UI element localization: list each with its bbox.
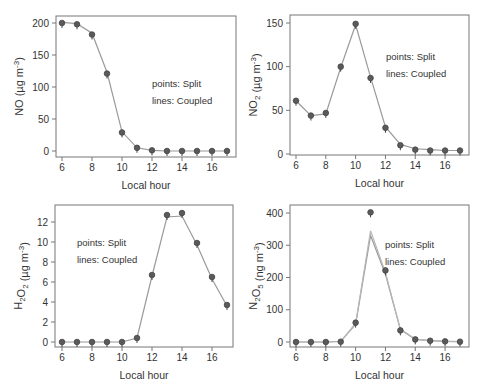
x-axis-label: Local hour bbox=[355, 369, 405, 381]
data-point bbox=[59, 20, 65, 26]
y-tick-label: 0 bbox=[42, 337, 48, 348]
data-point bbox=[179, 148, 185, 154]
legend-annotation: points: Splitlines: Coupled bbox=[385, 239, 445, 267]
data-point bbox=[308, 113, 314, 119]
y-tick-label: 8 bbox=[42, 257, 48, 268]
data-point bbox=[104, 71, 110, 77]
data-point bbox=[442, 339, 448, 345]
x-tick-label: 6 bbox=[293, 160, 299, 171]
y-tick-label: 100 bbox=[32, 82, 49, 93]
data-point bbox=[293, 339, 299, 345]
data-point bbox=[224, 302, 230, 308]
x-tick-label: 10 bbox=[116, 352, 128, 363]
data-point bbox=[134, 145, 140, 151]
panel-h2o2: 0246810126810121416Local hourH2O2 (µg m-… bbox=[12, 205, 233, 381]
x-tick-label: 6 bbox=[293, 352, 299, 363]
y-tick-label: 100 bbox=[266, 61, 283, 72]
data-point bbox=[383, 125, 389, 131]
series-line-coupled bbox=[62, 22, 227, 151]
y-tick-label: 0 bbox=[277, 149, 283, 160]
legend-annotation: points: Splitlines: Coupled bbox=[77, 237, 137, 265]
data-point bbox=[353, 21, 359, 27]
data-point bbox=[412, 147, 418, 153]
data-point bbox=[338, 339, 344, 345]
data-point bbox=[119, 130, 125, 136]
series-points-split bbox=[293, 21, 463, 155]
data-point bbox=[224, 148, 230, 154]
annotation-points-split: points: Split bbox=[385, 239, 434, 250]
x-axis-label: Local hour bbox=[121, 179, 171, 191]
x-tick-label: 6 bbox=[59, 352, 65, 363]
data-point bbox=[74, 21, 80, 27]
series-line-coupled bbox=[296, 231, 460, 342]
x-tick-label: 16 bbox=[440, 160, 452, 171]
data-point bbox=[74, 339, 80, 345]
data-point bbox=[368, 210, 374, 216]
data-point bbox=[119, 339, 125, 345]
y-tick-label: 200 bbox=[32, 18, 49, 29]
data-point bbox=[209, 148, 215, 154]
data-point bbox=[194, 240, 200, 246]
data-point bbox=[457, 339, 463, 345]
figure-canvas: 0501001502006810121416Local hourNO (µg m… bbox=[0, 0, 482, 391]
x-tick-label: 8 bbox=[323, 352, 329, 363]
data-point bbox=[338, 64, 344, 70]
y-axis: 050100150 bbox=[266, 18, 290, 160]
series-points-split bbox=[59, 20, 230, 156]
y-tick-label: 0 bbox=[43, 146, 49, 157]
y-tick-label: 200 bbox=[266, 272, 283, 283]
data-point bbox=[104, 339, 110, 345]
x-tick-label: 14 bbox=[176, 162, 188, 173]
annotation-points-split: points: Split bbox=[386, 51, 435, 62]
x-tick-label: 12 bbox=[380, 352, 392, 363]
x-tick-label: 16 bbox=[206, 352, 218, 363]
data-point bbox=[179, 210, 185, 216]
y-tick-label: 300 bbox=[266, 240, 283, 251]
data-point bbox=[89, 32, 95, 38]
y-tick-label: 2 bbox=[42, 317, 48, 328]
x-tick-label: 10 bbox=[350, 160, 362, 171]
x-tick-label: 8 bbox=[323, 160, 329, 171]
legend-annotation: points: Splitlines: Coupled bbox=[152, 78, 212, 106]
x-axis: 6810121416 bbox=[293, 155, 451, 171]
y-axis-label: NO2 (µg m-3) bbox=[247, 53, 262, 116]
y-tick-label: 100 bbox=[266, 304, 283, 315]
plot-frame bbox=[290, 15, 469, 155]
data-point bbox=[164, 212, 170, 218]
x-axis-label: Local hour bbox=[119, 369, 169, 381]
plot-frame bbox=[290, 205, 469, 347]
data-point bbox=[134, 335, 140, 341]
x-tick-label: 8 bbox=[89, 162, 95, 173]
series-points-split bbox=[293, 210, 463, 347]
data-point bbox=[323, 339, 329, 345]
y-axis-label: NO (µg m-3) bbox=[12, 57, 25, 116]
annotation-points-split: points: Split bbox=[77, 237, 126, 248]
panel-no2: 0501001506810121416Local hourNO2 (µg m-3… bbox=[247, 15, 469, 189]
x-tick-label: 14 bbox=[410, 160, 422, 171]
x-tick-label: 14 bbox=[176, 352, 188, 363]
x-tick-label: 12 bbox=[146, 162, 158, 173]
y-tick-label: 0 bbox=[277, 337, 283, 348]
annotation-lines-coupled: lines: Coupled bbox=[152, 95, 212, 106]
data-point bbox=[308, 339, 314, 345]
data-point bbox=[293, 98, 299, 104]
x-tick-label: 10 bbox=[350, 352, 362, 363]
data-point bbox=[398, 328, 404, 334]
x-tick-label: 14 bbox=[410, 352, 422, 363]
data-point bbox=[194, 148, 200, 154]
data-point bbox=[398, 142, 404, 148]
x-axis: 6810121416 bbox=[59, 347, 218, 363]
y-axis-label: N2O5 (ng m-3) bbox=[247, 242, 265, 309]
data-point bbox=[164, 148, 170, 154]
x-tick-label: 10 bbox=[116, 162, 128, 173]
x-tick-label: 8 bbox=[89, 352, 95, 363]
annotation-lines-coupled: lines: Coupled bbox=[77, 254, 137, 265]
x-tick-label: 12 bbox=[146, 352, 158, 363]
data-point bbox=[59, 339, 65, 345]
x-tick-label: 16 bbox=[206, 162, 218, 173]
data-point bbox=[412, 337, 418, 343]
data-point bbox=[427, 338, 433, 344]
y-tick-label: 50 bbox=[38, 114, 50, 125]
x-axis: 6810121416 bbox=[59, 157, 218, 173]
y-tick-label: 150 bbox=[32, 50, 49, 61]
